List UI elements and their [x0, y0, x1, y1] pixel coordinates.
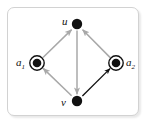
edge-v-to-a2	[82, 69, 110, 96]
node-label-a2: a2	[126, 57, 135, 71]
figure-root: u v a1 a2	[0, 0, 152, 128]
node-a1[interactable]	[30, 56, 44, 70]
node-u[interactable]	[72, 19, 82, 29]
edge-a2-to-u	[83, 30, 111, 58]
node-label-v: v	[61, 97, 66, 108]
node-label-a2-subscript: 2	[132, 63, 136, 71]
node-label-u: u	[62, 16, 68, 27]
node-label-a1-subscript: 1	[22, 63, 26, 71]
node-v[interactable]	[72, 96, 82, 106]
node-a2[interactable]	[109, 56, 123, 70]
edge-a1-to-u	[43, 30, 72, 58]
node-label-a1: a1	[16, 57, 25, 71]
edge-v-to-a1	[43, 68, 71, 95]
